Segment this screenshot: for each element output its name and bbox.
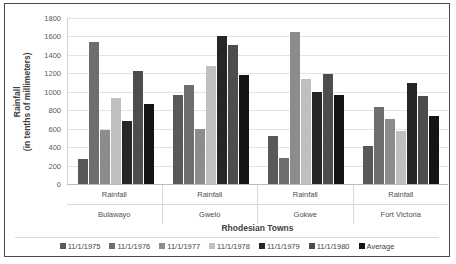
y-axis-tick: 1200 — [44, 69, 61, 78]
category-cell: RainfallFort Victoria — [353, 185, 449, 224]
y-axis-title-main: Rainfall — [12, 53, 22, 152]
category-label: Gwelo — [163, 205, 258, 224]
bar[interactable] — [363, 146, 373, 184]
bar[interactable] — [228, 45, 238, 184]
category-sublabel: Rainfall — [163, 185, 258, 205]
legend-label: 11/1/1979 — [267, 242, 300, 251]
category-cell: RainfallGwelo — [162, 185, 258, 224]
legend-item[interactable]: 11/1/1978 — [209, 242, 250, 251]
bar[interactable] — [301, 79, 311, 184]
y-axis-tick: 0 — [57, 180, 61, 189]
y-axis-tick-labels: 180016001400120010008006004002000 — [35, 14, 63, 186]
y-axis-tick: 1600 — [44, 32, 61, 41]
bar-group — [353, 18, 448, 184]
y-axis-title-sub: (in tenths of millimeters) — [22, 53, 32, 152]
y-axis-tick: 400 — [48, 143, 61, 152]
category-sublabel: Rainfall — [354, 185, 449, 205]
bar[interactable] — [78, 159, 88, 184]
bar[interactable] — [429, 116, 439, 184]
legend-swatch-icon — [159, 243, 165, 249]
bar[interactable] — [385, 119, 395, 184]
legend-label: Average — [367, 242, 395, 251]
legend-label: 11/1/1980 — [317, 242, 350, 251]
y-axis-tick: 200 — [48, 161, 61, 170]
category-label: Bulawayo — [67, 205, 162, 224]
legend-item[interactable]: Average — [359, 242, 395, 251]
bar[interactable] — [374, 107, 384, 184]
bar[interactable] — [100, 130, 110, 184]
legend-swatch-icon — [359, 243, 365, 249]
bar-group — [68, 18, 163, 184]
category-label: Fort Victoria — [354, 205, 449, 224]
category-cell: RainfallBulawayo — [67, 185, 162, 224]
plot-area — [67, 18, 448, 184]
y-axis-tick: 600 — [48, 124, 61, 133]
legend-swatch-icon — [209, 243, 215, 249]
bar[interactable] — [144, 104, 154, 184]
bar-group — [258, 18, 353, 184]
legend-label: 11/1/1975 — [68, 242, 101, 251]
y-axis-tick: 1000 — [44, 87, 61, 96]
legend-label: 11/1/1977 — [167, 242, 200, 251]
bar[interactable] — [239, 75, 249, 184]
y-axis-tick: 1400 — [44, 50, 61, 59]
chart-legend: 11/1/197511/1/197611/1/197711/1/197811/1… — [15, 237, 439, 254]
y-axis-title: Rainfall (in tenths of millimeters) — [7, 12, 37, 192]
legend-item[interactable]: 11/1/1975 — [60, 242, 101, 251]
legend-item[interactable]: 11/1/1977 — [159, 242, 200, 251]
y-axis-title-rotated: Rainfall (in tenths of millimeters) — [12, 53, 32, 152]
legend-swatch-icon — [259, 243, 265, 249]
category-sublabel: Rainfall — [67, 185, 162, 205]
category-sublabel: Rainfall — [258, 185, 353, 205]
bar[interactable] — [323, 74, 333, 184]
legend-item[interactable]: 11/1/1976 — [109, 242, 150, 251]
category-label: Gokwe — [258, 205, 353, 224]
chart-container: Rainfall (in tenths of millimeters) 1800… — [4, 3, 450, 257]
bar-group — [163, 18, 258, 184]
bar[interactable] — [407, 83, 417, 184]
legend-item[interactable]: 11/1/1979 — [259, 242, 300, 251]
bar[interactable] — [312, 92, 322, 184]
legend-label: 11/1/1978 — [217, 242, 250, 251]
bar[interactable] — [279, 158, 289, 184]
category-axis: RainfallBulawayoRainfallGweloRainfallGok… — [67, 184, 448, 224]
bar[interactable] — [217, 36, 227, 184]
bar[interactable] — [111, 98, 121, 184]
legend-swatch-icon — [109, 243, 115, 249]
y-axis-tick: 800 — [48, 106, 61, 115]
bar[interactable] — [418, 96, 428, 184]
legend-swatch-icon — [60, 243, 66, 249]
bar[interactable] — [133, 71, 143, 184]
bar[interactable] — [195, 129, 205, 184]
bar[interactable] — [173, 95, 183, 184]
legend-label: 11/1/1976 — [117, 242, 150, 251]
y-axis-tick: 1800 — [44, 14, 61, 23]
legend-item[interactable]: 11/1/1980 — [309, 242, 350, 251]
bar[interactable] — [184, 85, 194, 184]
bar[interactable] — [396, 131, 406, 184]
bar[interactable] — [268, 136, 278, 184]
plot-wrapper: Rainfall (in tenths of millimeters) 1800… — [5, 4, 449, 256]
bar[interactable] — [89, 42, 99, 184]
bar-groups — [68, 18, 448, 184]
legend-swatch-icon — [309, 243, 315, 249]
x-axis-title: Rhodesian Towns — [67, 223, 448, 233]
bar[interactable] — [206, 66, 216, 184]
bar[interactable] — [334, 95, 344, 184]
bar[interactable] — [122, 121, 132, 184]
bar[interactable] — [290, 32, 300, 184]
category-cell: RainfallGokwe — [257, 185, 353, 224]
